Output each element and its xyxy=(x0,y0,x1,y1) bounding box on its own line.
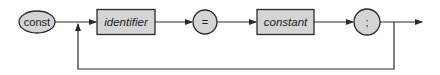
node-semicolon-label: ; xyxy=(365,16,368,28)
syntax-diagram: const identifier = constant ; xyxy=(0,0,440,75)
node-identifier: identifier xyxy=(97,10,155,35)
node-constant: constant xyxy=(257,10,314,35)
node-const-label: const xyxy=(24,16,50,28)
node-identifier-label: identifier xyxy=(104,16,149,28)
node-semicolon: ; xyxy=(354,9,380,35)
node-equals-label: = xyxy=(202,16,208,28)
node-equals: = xyxy=(193,10,217,34)
node-const: const xyxy=(19,11,55,33)
node-constant-label: constant xyxy=(264,16,308,28)
